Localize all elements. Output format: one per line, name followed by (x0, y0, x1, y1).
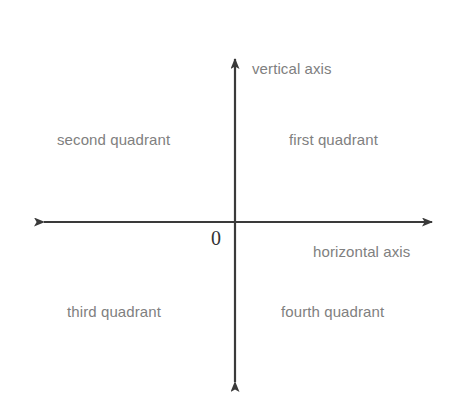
third-quadrant-label: third quadrant (67, 303, 161, 321)
coordinate-plane-figure: vertical axis second quadrant first quad… (0, 0, 465, 407)
origin-label: 0 (211, 227, 221, 249)
vertical-axis-label: vertical axis (252, 60, 332, 78)
horizontal-axis-label: horizontal axis (313, 243, 410, 261)
axes-graphic (0, 0, 465, 407)
first-quadrant-label: first quadrant (289, 131, 378, 149)
second-quadrant-label: second quadrant (57, 131, 170, 149)
fourth-quadrant-label: fourth quadrant (281, 303, 384, 321)
